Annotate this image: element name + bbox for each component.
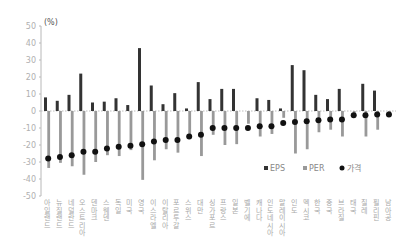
- bars: [44, 48, 391, 180]
- x-category-label: 네덜란드: [68, 198, 75, 230]
- price-dot: [127, 143, 133, 149]
- legend-per-label: PER: [309, 164, 325, 173]
- eps-bar: [338, 89, 341, 111]
- x-category-label: 벨기에: [244, 199, 250, 222]
- x-category-label: 이스라엘: [150, 198, 157, 230]
- per-bar: [271, 111, 274, 134]
- eps-bar: [267, 100, 270, 111]
- price-dot: [327, 117, 333, 123]
- eps-bar: [220, 89, 223, 111]
- x-category-label: 덴마크: [91, 198, 98, 222]
- x-category-label: 뉴질랜드: [56, 199, 63, 230]
- y-tick-label: 20: [26, 73, 36, 82]
- per-bar: [212, 111, 215, 135]
- x-category-label: 인도: [291, 198, 298, 215]
- price-dot: [339, 117, 345, 123]
- x-category-label: 말레이시아: [279, 199, 286, 237]
- price-dot: [221, 125, 227, 131]
- price-dot: [116, 144, 122, 150]
- x-category-label: 프랑스: [220, 199, 227, 222]
- per-bar: [83, 111, 86, 175]
- price-dot: [163, 137, 169, 143]
- eps-bar: [56, 101, 59, 111]
- x-category-label: 칠레: [361, 198, 367, 215]
- chart: (%) 50403020100-10-20-30-40-50 아일랜드뉴질랜드네…: [0, 0, 404, 246]
- eps-bar: [209, 99, 212, 111]
- y-unit-label: (%): [44, 18, 58, 27]
- eps-bar: [185, 108, 188, 111]
- price-dot: [139, 141, 145, 147]
- price-dot: [257, 123, 263, 129]
- price-dot: [151, 139, 157, 145]
- per-bar: [294, 111, 297, 154]
- eps-bar: [291, 65, 294, 111]
- y-tick-label: -20: [23, 141, 36, 150]
- y-tick-label: 50: [26, 22, 36, 31]
- legend-per-swatch: [303, 166, 307, 170]
- price-dot: [245, 125, 251, 131]
- eps-bar: [79, 74, 82, 111]
- price-dot: [80, 149, 86, 155]
- y-tick-label: 10: [26, 90, 36, 99]
- price-dot: [386, 111, 392, 117]
- eps-bar: [68, 95, 71, 111]
- x-category-label: 태국: [350, 199, 357, 215]
- legend-eps-label: EPS: [270, 164, 285, 173]
- x-category-label: 스웨덴: [103, 199, 110, 222]
- x-category-label: 스위스: [185, 199, 192, 222]
- price-dot: [45, 156, 51, 162]
- x-category-label: 멕시코: [303, 198, 310, 222]
- y-tick-label: 0: [31, 107, 36, 116]
- per-bar: [177, 111, 180, 153]
- x-category-label: 오스트리아: [79, 199, 86, 237]
- price-dot: [186, 134, 192, 140]
- x-category-label: 독일: [115, 199, 122, 215]
- x-category-label: 일본: [232, 198, 239, 215]
- x-category-label: 한국: [314, 199, 321, 215]
- price-dot: [92, 149, 98, 155]
- x-category-label: 캐나다: [256, 199, 263, 222]
- price-dot: [292, 119, 298, 125]
- x-axis-labels: 아일랜드뉴질랜드네덜란드오스트리아덴마크스웨덴독일미국영국이스라엘이탈리아포르투…: [44, 198, 392, 237]
- eps-bar: [44, 97, 47, 111]
- eps-bar: [279, 108, 282, 111]
- y-tick-label: 30: [26, 56, 36, 65]
- eps-bar: [197, 82, 200, 111]
- x-category-label: 영국: [138, 198, 145, 215]
- eps-bar: [91, 103, 94, 112]
- per-bar: [341, 111, 344, 137]
- price-dots: [45, 111, 392, 161]
- eps-bar: [303, 70, 306, 111]
- x-category-label: 이탈리아: [162, 198, 169, 230]
- eps-bar: [326, 99, 329, 111]
- price-dot: [304, 118, 310, 124]
- price-dot: [69, 152, 75, 158]
- eps-bar: [232, 89, 235, 111]
- price-dot: [104, 145, 110, 151]
- price-dot: [351, 112, 357, 118]
- eps-bar: [361, 84, 364, 111]
- x-category-label: 싱가포르: [209, 198, 216, 230]
- eps-bar: [138, 48, 141, 111]
- price-dot: [315, 117, 321, 123]
- x-category-label: 미국: [126, 198, 133, 215]
- price-dot: [174, 137, 180, 143]
- per-bar: [247, 111, 250, 124]
- price-dot: [57, 154, 63, 160]
- x-category-label: 인도네시아: [267, 198, 274, 237]
- price-dot: [198, 132, 204, 138]
- eps-bar: [162, 104, 165, 111]
- eps-bar: [115, 98, 118, 111]
- legend-price-label: 가격: [347, 163, 361, 173]
- eps-bar: [126, 105, 129, 111]
- y-tick-label: -50: [23, 192, 36, 201]
- eps-bar: [173, 93, 176, 111]
- y-tick-label: 40: [26, 39, 36, 48]
- eps-bar: [373, 91, 376, 111]
- per-bar: [306, 111, 309, 149]
- per-bar: [153, 111, 156, 160]
- y-tick-label: -30: [23, 158, 36, 167]
- legend-price-swatch: [340, 166, 345, 171]
- eps-bar: [150, 86, 153, 112]
- price-dot: [280, 120, 286, 126]
